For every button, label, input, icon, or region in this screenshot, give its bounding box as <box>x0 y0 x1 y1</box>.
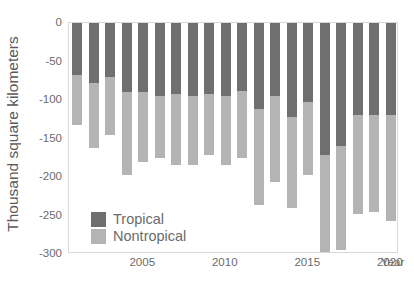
bar-segment-nontropical <box>171 94 181 166</box>
y-tick-label: 0 <box>22 16 62 28</box>
x-tick-label: 2005 <box>129 256 155 268</box>
bar-segment-nontropical <box>138 92 148 161</box>
legend-item-nontropical: Nontropical <box>91 228 186 244</box>
y-tick-label: -100 <box>22 93 62 105</box>
y-tick-label: -250 <box>22 209 62 221</box>
bar-segment-tropical <box>89 23 99 83</box>
bar-segment-tropical <box>320 23 330 155</box>
bar-segment-tropical <box>155 23 165 96</box>
legend-label-tropical: Tropical <box>113 212 164 227</box>
bar-segment-tropical <box>369 23 379 115</box>
y-tick-label: -150 <box>22 132 62 144</box>
bar-segment-tropical <box>138 23 148 92</box>
legend-swatch-tropical <box>91 212 106 227</box>
bar-segment-tropical <box>237 23 247 91</box>
bar-segment-tropical <box>353 23 363 115</box>
bar-segment-nontropical <box>320 155 330 251</box>
bar-segment-nontropical <box>122 92 132 174</box>
bar-segment-nontropical <box>270 96 280 182</box>
bar-segment-nontropical <box>369 115 379 211</box>
bar-segment-tropical <box>254 23 264 109</box>
bar-segment-nontropical <box>204 94 214 156</box>
bar-segment-nontropical <box>155 96 165 158</box>
chart-root: Thousand square kilometers 0-50-100-150-… <box>0 0 414 285</box>
legend-item-tropical: Tropical <box>91 211 186 227</box>
legend-label-nontropical: Nontropical <box>113 229 186 244</box>
bar-segment-nontropical <box>105 77 115 135</box>
bar-segment-tropical <box>336 23 346 146</box>
bar-segment-nontropical <box>353 115 363 214</box>
bar-segment-nontropical <box>89 83 99 148</box>
bar-segment-nontropical <box>72 75 82 124</box>
bar-segment-tropical <box>72 23 82 75</box>
bar-segment-tropical <box>105 23 115 77</box>
x-axis-tick-labels: 2005201020152020 <box>68 256 398 276</box>
bar-segment-tropical <box>221 23 231 96</box>
bar-segment-nontropical <box>336 146 346 250</box>
chart-legend: Tropical Nontropical <box>91 211 186 244</box>
y-axis-tick-labels: 0-50-100-150-200-250-300 <box>20 0 62 285</box>
x-tick-label: 2015 <box>294 256 320 268</box>
bar-segment-nontropical <box>237 91 247 158</box>
bar-segment-nontropical <box>188 96 198 165</box>
bar-segment-tropical <box>386 23 396 115</box>
bar-segment-tropical <box>270 23 280 96</box>
y-tick-label: -200 <box>22 170 62 182</box>
x-axis-title: Year <box>381 256 404 268</box>
plot-area: Tropical Nontropical <box>68 22 398 253</box>
bar-segment-nontropical <box>221 96 231 165</box>
bar-segment-nontropical <box>254 109 264 205</box>
bar-segment-nontropical <box>287 117 297 208</box>
x-tick-label: 2010 <box>212 256 238 268</box>
bar-segment-tropical <box>303 23 313 102</box>
bar-segment-tropical <box>287 23 297 117</box>
bar-segment-tropical <box>204 23 214 94</box>
legend-swatch-nontropical <box>91 229 106 244</box>
bar-segment-tropical <box>188 23 198 96</box>
y-tick-label: -300 <box>22 247 62 259</box>
bar-segment-tropical <box>122 23 132 92</box>
y-tick-label: -50 <box>22 55 62 67</box>
bar-segment-tropical <box>171 23 181 94</box>
bar-segment-nontropical <box>386 115 396 220</box>
bar-segment-nontropical <box>303 102 313 174</box>
